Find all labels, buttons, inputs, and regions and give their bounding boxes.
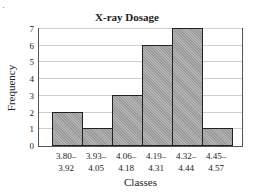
x-tick-line: 3.93– bbox=[81, 150, 111, 162]
x-tick-line: 4.44 bbox=[171, 162, 201, 174]
x-tick-label: 4.19–4.31 bbox=[141, 150, 171, 174]
y-tick-label: 1 bbox=[22, 124, 34, 134]
x-axis-label: Classes bbox=[38, 176, 243, 188]
x-tick-line: 4.57 bbox=[201, 162, 231, 174]
y-tick-label: 3 bbox=[22, 91, 34, 101]
histogram-bar bbox=[82, 128, 113, 146]
x-tick-label: 4.32–4.44 bbox=[171, 150, 201, 174]
x-tick-line: 4.31 bbox=[141, 162, 171, 174]
y-tick-label: 2 bbox=[22, 108, 34, 118]
histogram-bar bbox=[142, 45, 173, 146]
y-tick-label: 7 bbox=[22, 24, 34, 34]
histogram-bar bbox=[52, 112, 83, 146]
y-tick-label: 5 bbox=[22, 57, 34, 67]
x-tick-line: 4.32– bbox=[171, 150, 201, 162]
chart-title: X-ray Dosage bbox=[0, 11, 254, 23]
histogram-bar bbox=[112, 95, 143, 146]
gridline bbox=[39, 78, 242, 79]
x-tick-line: 4.45– bbox=[201, 150, 231, 162]
y-axis-label: Frequency bbox=[5, 63, 17, 113]
gridline bbox=[39, 28, 242, 29]
plot-area bbox=[38, 28, 243, 147]
y-tick-label: 4 bbox=[22, 74, 34, 84]
x-tick-label: 4.06–4.18 bbox=[111, 150, 141, 174]
x-tick-line: 4.19– bbox=[141, 150, 171, 162]
x-tick-line: 3.92 bbox=[51, 162, 81, 174]
x-tick-line: 4.06– bbox=[111, 150, 141, 162]
x-tick-label: 3.93–4.05 bbox=[81, 150, 111, 174]
y-tick-label: 6 bbox=[22, 41, 34, 51]
histogram-bar bbox=[172, 28, 203, 146]
x-tick-line: 4.18 bbox=[111, 162, 141, 174]
gridline bbox=[39, 61, 242, 62]
x-tick-label: 4.45–4.57 bbox=[201, 150, 231, 174]
x-tick-label: 3.80–3.92 bbox=[51, 150, 81, 174]
gridline bbox=[39, 45, 242, 46]
x-tick-line: 3.80– bbox=[51, 150, 81, 162]
histogram-bar bbox=[202, 128, 233, 146]
x-tick-line: 4.05 bbox=[81, 162, 111, 174]
y-tick-label: 0 bbox=[22, 141, 34, 151]
